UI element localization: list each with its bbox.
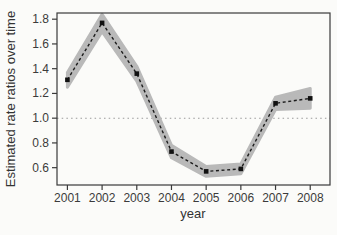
x-tick-label: 2002 — [89, 191, 116, 205]
rate-ratio-chart: 20012002200320042005200620072008 0.60.81… — [0, 0, 337, 235]
x-tick-label: 2003 — [123, 191, 150, 205]
y-axis: 0.60.81.01.21.41.61.8 — [32, 12, 57, 174]
figure: 20012002200320042005200620072008 0.60.81… — [0, 0, 337, 235]
data-point — [204, 169, 209, 174]
x-tick-label: 2001 — [54, 191, 81, 205]
series-line — [67, 23, 310, 171]
x-tick-label: 2006 — [227, 191, 254, 205]
x-tick-label: 2008 — [297, 191, 324, 205]
x-tick-label: 2007 — [262, 191, 289, 205]
y-tick-label: 0.8 — [32, 136, 49, 150]
data-point — [134, 71, 139, 76]
data-point — [308, 96, 313, 101]
data-point — [169, 149, 174, 154]
confidence-band — [67, 14, 310, 176]
y-tick-label: 1.6 — [32, 37, 49, 51]
y-tick-label: 1.2 — [32, 86, 49, 100]
band-polygon — [67, 14, 310, 176]
y-tick-label: 1.4 — [32, 62, 49, 76]
data-point — [65, 78, 70, 83]
y-tick-label: 1.8 — [32, 12, 49, 26]
data-point — [273, 101, 278, 106]
x-tick-label: 2004 — [158, 191, 185, 205]
x-axis-label: year — [180, 206, 206, 221]
y-tick-label: 1.0 — [32, 111, 49, 125]
x-axis: 20012002200320042005200620072008 — [54, 185, 324, 205]
data-point — [100, 21, 105, 26]
y-axis-label: Estimated rate ratios over time — [3, 11, 18, 187]
y-tick-label: 0.6 — [32, 161, 49, 175]
x-tick-label: 2005 — [193, 191, 220, 205]
data-point — [239, 167, 244, 172]
